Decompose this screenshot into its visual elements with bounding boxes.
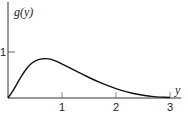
x-tick-label-3: 3 bbox=[167, 101, 173, 113]
x-tick-label-2: 2 bbox=[113, 101, 119, 113]
x-tick-label-1: 1 bbox=[59, 101, 65, 113]
y-tick-label-1: 1 bbox=[0, 46, 6, 58]
y-axis-label: g(y) bbox=[14, 6, 33, 18]
x-axis-label: y bbox=[175, 84, 180, 96]
density-curve bbox=[8, 59, 170, 98]
